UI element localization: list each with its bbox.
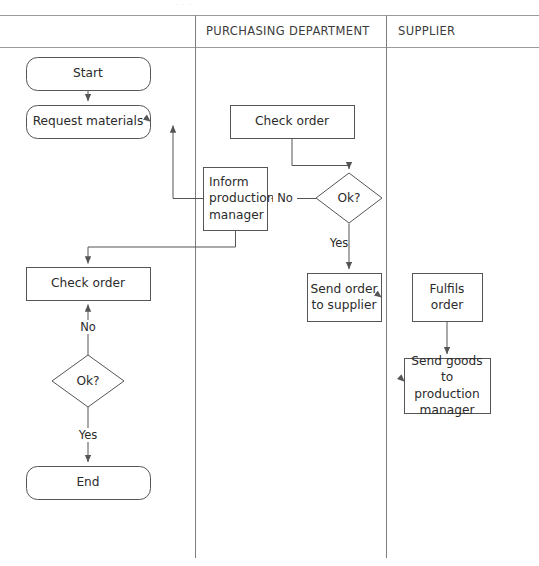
shape-ok-purchasing xyxy=(316,173,382,223)
edge-label-no-left: No xyxy=(75,320,101,334)
shape-ok-left xyxy=(52,355,124,407)
shape-send-goods xyxy=(405,359,491,414)
shape-end xyxy=(27,467,151,500)
shape-start xyxy=(27,58,151,91)
shape-inform-production xyxy=(204,168,268,231)
lane-title-purchasing: PURCHASING DEPARTMENT xyxy=(206,24,370,38)
shape-fulfils-order xyxy=(413,274,483,322)
edge-label-yes-purchasing: Yes xyxy=(326,236,352,250)
edge-inform-to-check-left xyxy=(88,231,236,264)
shape-check-order-left xyxy=(27,268,151,301)
shape-send-order xyxy=(308,274,382,322)
edge-label-no-purchasing: No xyxy=(273,191,297,205)
edge-label-yes-left: Yes xyxy=(75,428,101,442)
shape-request-materials xyxy=(27,106,151,139)
lane-title-supplier: SUPPLIER xyxy=(398,24,455,38)
edge-check-to-ok-pur xyxy=(292,139,349,170)
flowchart-vector-layer xyxy=(0,0,539,566)
flowchart-canvas: . . . xyxy=(0,0,539,566)
shape-check-order-purchasing xyxy=(231,106,355,139)
edge-inform-to-request xyxy=(173,126,204,199)
